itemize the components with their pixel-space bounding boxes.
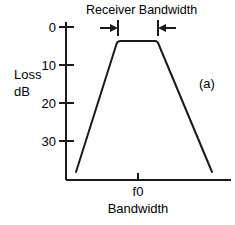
response-curve bbox=[76, 41, 212, 172]
arrow-left-icon bbox=[158, 24, 166, 32]
y-tick-label-20: 20 bbox=[26, 97, 56, 110]
figure-receiver-bandwidth-loss-chart: Receiver Bandwidth 0 10 20 30 Loss dB f0… bbox=[0, 0, 235, 225]
y-tick-label-0: 0 bbox=[26, 21, 56, 34]
arrow-right-icon bbox=[110, 24, 118, 32]
y-tick-label-30: 30 bbox=[26, 135, 56, 148]
x-tick-label-f0: f0 bbox=[118, 185, 158, 198]
y-axis-label-loss: Loss bbox=[14, 68, 41, 81]
y-axis-label-units: dB bbox=[14, 85, 30, 98]
receiver-bandwidth-label: Receiver Bandwidth bbox=[86, 4, 197, 17]
x-axis-label-bandwidth: Bandwidth bbox=[88, 202, 188, 215]
panel-label-a: (a) bbox=[199, 77, 215, 90]
